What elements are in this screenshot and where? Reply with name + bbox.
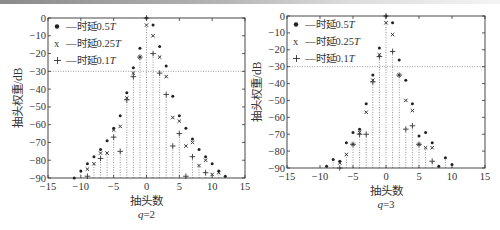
x-tick-label: 5	[177, 181, 182, 192]
x-tick-label: 5	[416, 171, 421, 182]
x-tick-label: −5	[108, 181, 119, 192]
y-tick-label: −60	[30, 119, 46, 130]
legend-label: —时延0.25T	[65, 38, 122, 49]
x-tick-label: 15	[480, 171, 491, 182]
legend-x-icon: x	[293, 36, 299, 47]
y-tick-label: −90	[269, 163, 285, 174]
y-tick-label: −10	[269, 27, 285, 38]
y-tick-label: −30	[30, 66, 46, 77]
y-tick-label: −40	[30, 84, 46, 95]
x-tick-label: 10	[447, 171, 458, 182]
y-axis-label: 抽头权重/dB	[11, 67, 24, 128]
y-tick-label: −70	[269, 129, 285, 140]
y-tick-label: −20	[269, 44, 285, 55]
x-tick-label: 0	[144, 181, 149, 192]
x-tick-label: 0	[383, 171, 388, 182]
x-axis-label: 抽头数	[370, 184, 404, 197]
legend-plus-icon	[293, 55, 300, 62]
legend-dot-icon	[294, 22, 298, 26]
legend-label: —时延0.25T	[304, 36, 361, 47]
legend-label: —时延0.5T	[304, 19, 356, 30]
y-axis: 0−10−20−30−40−50−60−70−80−90	[269, 11, 485, 174]
legend-label: —时延0.1T	[65, 55, 117, 66]
y-tick-label: 0	[41, 13, 46, 24]
y-tick-label: −20	[30, 48, 46, 59]
y-axis: 0−10−20−30−40−50−60−70−80−90	[30, 13, 245, 184]
panel-caption: q=2	[138, 208, 155, 220]
x-tick-label: −5	[347, 171, 358, 182]
y-tick-label: 0	[280, 11, 285, 22]
legend: —时延0.5Tx—时延0.25T—时延0.1T	[54, 21, 122, 66]
chart-panel-q2: −15−10−50510150−10−20−30−40−50−60−70−80−…	[0, 0, 250, 230]
y-tick-label: −80	[269, 146, 285, 157]
chart-panel-q3: −15−10−50510150−10−20−30−40−50−60−70−80−…	[250, 0, 500, 230]
y-tick-label: −10	[30, 30, 46, 41]
legend: —时延0.5Tx—时延0.25T—时延0.1T	[293, 19, 361, 64]
y-axis-label: 抽头权重/dB	[250, 61, 263, 122]
y-tick-label: −90	[30, 173, 46, 184]
y-tick-label: −70	[30, 137, 46, 148]
x-tick-label: −10	[73, 181, 89, 192]
stem-plot: −15−10−50510150−10−20−30−40−50−60−70−80−…	[0, 0, 250, 230]
legend-label: —时延0.5T	[65, 21, 117, 32]
x-axis-label: 抽头数	[130, 194, 164, 207]
y-tick-label: −80	[30, 155, 46, 166]
legend-dot-icon	[55, 24, 59, 28]
x-tick-label: −10	[312, 171, 328, 182]
y-tick-label: −60	[269, 112, 285, 123]
x-tick-label: 15	[240, 181, 250, 192]
x-tick-label: 10	[207, 181, 218, 192]
legend-x-icon: x	[54, 38, 60, 49]
panel-caption: q=3	[377, 198, 395, 210]
y-tick-label: −50	[30, 101, 46, 112]
legend-plus-icon	[54, 57, 61, 64]
y-tick-label: −50	[269, 95, 285, 106]
y-tick-label: −40	[269, 78, 285, 89]
stem-plot: −15−10−50510150−10−20−30−40−50−60−70−80−…	[250, 0, 500, 230]
legend-label: —时延0.1T	[304, 53, 356, 64]
y-tick-label: −30	[269, 61, 285, 72]
